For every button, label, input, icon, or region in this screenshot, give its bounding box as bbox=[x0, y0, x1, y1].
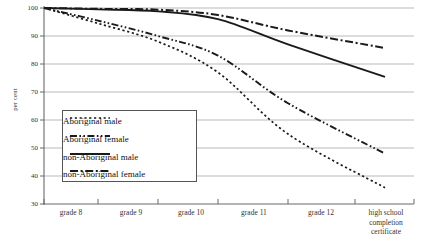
x-tick-label-grade-10: grade 10 bbox=[161, 208, 221, 218]
legend-swatch-dotted bbox=[69, 112, 111, 124]
x-axis-line bbox=[44, 199, 414, 204]
legend-swatch-dash-dot-dot bbox=[69, 130, 111, 142]
x-tick-label-grade-8: grade 8 bbox=[41, 208, 101, 218]
legend-swatch-solid bbox=[69, 148, 111, 160]
legend-item-non-aboriginal-male: non-Aboriginal male bbox=[63, 148, 198, 166]
series-line-non-aboriginal-male bbox=[44, 8, 385, 77]
x-tick-label-hs-completion-certificate: high school completion certificate bbox=[355, 208, 417, 235]
line-chart: per cent 100 90 80 70 60 50 40 30 bbox=[0, 0, 421, 235]
x-tick-label-grade-11: grade 11 bbox=[224, 208, 284, 218]
chart-legend: Aboriginal male Aboriginal female non-Ab… bbox=[62, 110, 197, 182]
legend-swatch-dash-dot bbox=[69, 165, 111, 177]
y-axis-line bbox=[40, 6, 44, 205]
legend-item-non-aboriginal-female: non-Aboriginal female bbox=[63, 165, 198, 183]
x-tick-label-grade-12: grade 12 bbox=[291, 208, 351, 218]
series-line-non-aboriginal-female bbox=[44, 8, 385, 48]
legend-item-aboriginal-female: Aboriginal female bbox=[63, 130, 198, 148]
legend-item-aboriginal-male: Aboriginal male bbox=[63, 112, 198, 130]
x-tick-label-grade-9: grade 9 bbox=[101, 208, 161, 218]
